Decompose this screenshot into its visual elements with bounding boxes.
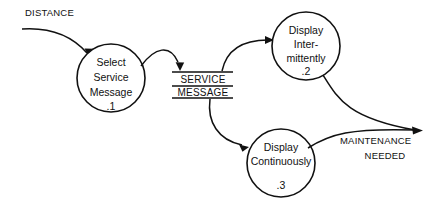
data-store-label-line1: SERVICE bbox=[180, 74, 225, 85]
process-1-label-line2: Service bbox=[93, 71, 128, 83]
data-flow-diagram: Select Service Message .1 SERVICE MESSAG… bbox=[0, 0, 437, 209]
process-node-2[interactable]: Display Inter- mittently .2 bbox=[272, 12, 340, 80]
flow-maintenance-needed-label-line1: MAINTENANCE bbox=[340, 135, 411, 146]
data-store-service-message[interactable]: SERVICE MESSAGE bbox=[172, 72, 233, 98]
process-3-label-line2: Continuously bbox=[251, 155, 312, 167]
process-2-label-line2: Inter- bbox=[294, 38, 319, 50]
process-2-number: .2 bbox=[302, 65, 311, 77]
flow-distance-label: DISTANCE bbox=[25, 7, 74, 18]
flow-to-continuous-arrowhead bbox=[239, 145, 249, 152]
process-3-label-line1: Display bbox=[264, 141, 299, 153]
flow-service-message-in-arrowhead bbox=[176, 62, 185, 71]
process-1-label-line3: Message bbox=[90, 86, 133, 98]
flow-service-message-in-path bbox=[141, 50, 178, 66]
process-2-label-line1: Display bbox=[289, 24, 324, 36]
process-3-number: .3 bbox=[277, 179, 286, 191]
flow-to-continuous-path bbox=[210, 99, 242, 145]
diagram-canvas: Select Service Message .1 SERVICE MESSAG… bbox=[0, 0, 437, 209]
flow-to-intermittent bbox=[222, 36, 274, 71]
process-1-label-line1: Select bbox=[96, 56, 125, 68]
flow-distance-path bbox=[22, 29, 87, 53]
flow-maintenance-from-process-2 bbox=[323, 75, 415, 130]
process-1-number: .1 bbox=[107, 100, 116, 112]
process-node-3[interactable]: Display Continuously .3 bbox=[247, 129, 315, 197]
flow-to-continuous bbox=[210, 99, 249, 152]
flow-to-intermittent-path bbox=[222, 40, 268, 71]
flow-maintenance-needed-arrowhead bbox=[412, 127, 423, 135]
flow-maintenance-needed-label-line2: NEEDED bbox=[365, 150, 406, 161]
process-2-label-line3: mittently bbox=[286, 52, 326, 64]
flow-distance bbox=[22, 29, 94, 57]
process-node-1[interactable]: Select Service Message .1 bbox=[77, 44, 145, 112]
flow-maintenance-needed: MAINTENANCE NEEDED bbox=[308, 75, 423, 161]
flow-service-message-in bbox=[141, 50, 184, 71]
data-store-label-line2: MESSAGE bbox=[178, 87, 229, 98]
